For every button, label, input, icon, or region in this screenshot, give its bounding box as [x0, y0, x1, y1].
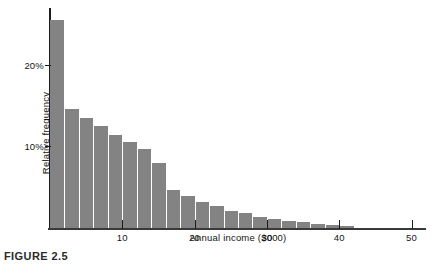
- bar: [108, 135, 122, 228]
- x-tick: [412, 220, 413, 229]
- y-tick-label: 10%: [24, 141, 44, 152]
- bar: [339, 226, 353, 228]
- bar: [252, 217, 266, 228]
- bar: [93, 126, 107, 228]
- bar: [209, 206, 223, 228]
- bar: [79, 118, 93, 228]
- bar: [238, 213, 252, 228]
- bar: [325, 225, 339, 228]
- bar: [267, 219, 281, 228]
- x-tick: [267, 220, 268, 229]
- bar: [310, 224, 324, 228]
- bar: [166, 190, 180, 228]
- y-tick: [45, 146, 51, 147]
- x-axis-title: Annual income ($000): [50, 232, 426, 243]
- figure-caption: FIGURE 2.5: [4, 250, 68, 262]
- x-axis-line: [48, 228, 426, 230]
- bar: [122, 142, 136, 228]
- bar: [151, 163, 165, 228]
- x-tick: [122, 220, 123, 229]
- y-tick: [45, 65, 51, 66]
- bar: [180, 196, 194, 228]
- bar: [224, 211, 238, 228]
- bar: [64, 109, 78, 228]
- y-tick-label: 20%: [24, 59, 44, 70]
- plot-area: 1020304050 10%20%: [50, 12, 426, 228]
- figure-histogram: Relative frequency 1020304050 10%20% Ann…: [0, 0, 445, 265]
- bar: [195, 202, 209, 228]
- bar-series: [50, 12, 426, 228]
- x-tick: [339, 220, 340, 229]
- bar: [296, 222, 310, 228]
- bar: [50, 20, 64, 228]
- bar: [137, 149, 151, 228]
- bar: [281, 221, 295, 228]
- x-tick: [195, 220, 196, 229]
